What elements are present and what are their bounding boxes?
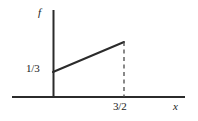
y-axis-tick-label-one-third: 1/3 (26, 63, 39, 74)
y-axis-label-f: f (38, 7, 41, 18)
plot-svg (0, 0, 198, 121)
figure-canvas: f x 1/3 3/2 (0, 0, 198, 121)
x-axis-tick-label-three-halves: 3/2 (113, 101, 126, 112)
density-line-segment (53, 42, 124, 72)
x-axis-label-x: x (173, 101, 178, 112)
